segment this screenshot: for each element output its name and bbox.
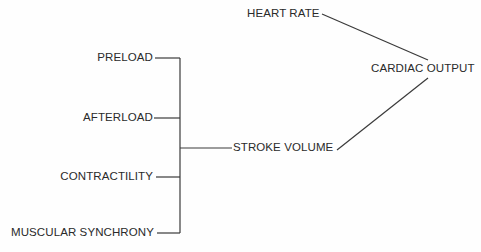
node-preload: PRELOAD bbox=[60, 51, 153, 64]
node-stroke-volume: STROKE VOLUME bbox=[233, 141, 333, 154]
heart-rate-to-cardiac-output-line bbox=[322, 14, 428, 60]
node-heart-rate: HEART RATE bbox=[247, 7, 320, 20]
node-contractility: CONTRACTILITY bbox=[20, 170, 153, 183]
cardiac-output-diagram: PRELOAD AFTERLOAD CONTRACTILITY MUSCULAR… bbox=[0, 0, 481, 252]
node-cardiac-output: CARDIAC OUTPUT bbox=[371, 62, 475, 75]
stroke-volume-to-cardiac-output-line bbox=[337, 78, 428, 150]
connector-lines bbox=[0, 0, 481, 252]
node-afterload: AFTERLOAD bbox=[50, 111, 153, 124]
node-muscular-synchrony: MUSCULAR SYNCHRONY bbox=[0, 226, 154, 239]
